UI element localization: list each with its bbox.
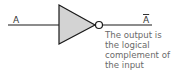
- description-line: the logical: [105, 40, 181, 50]
- output-label: A: [143, 16, 149, 25]
- gate-triangle: [59, 5, 95, 44]
- description-line: the input: [105, 60, 181, 70]
- inversion-bubble: [96, 22, 103, 29]
- gate-description: The output is the logical complement of …: [105, 30, 181, 70]
- input-label: A: [13, 16, 19, 25]
- description-line: The output is: [105, 30, 181, 40]
- description-line: complement of: [105, 50, 181, 60]
